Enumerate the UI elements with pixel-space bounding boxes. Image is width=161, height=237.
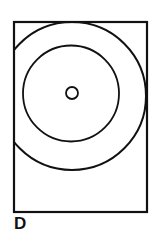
figure-panel: D — [0, 0, 161, 237]
canvas-background — [0, 0, 161, 237]
concentric-circles-drawing — [0, 0, 161, 237]
figure-caption-label: D — [14, 214, 26, 234]
